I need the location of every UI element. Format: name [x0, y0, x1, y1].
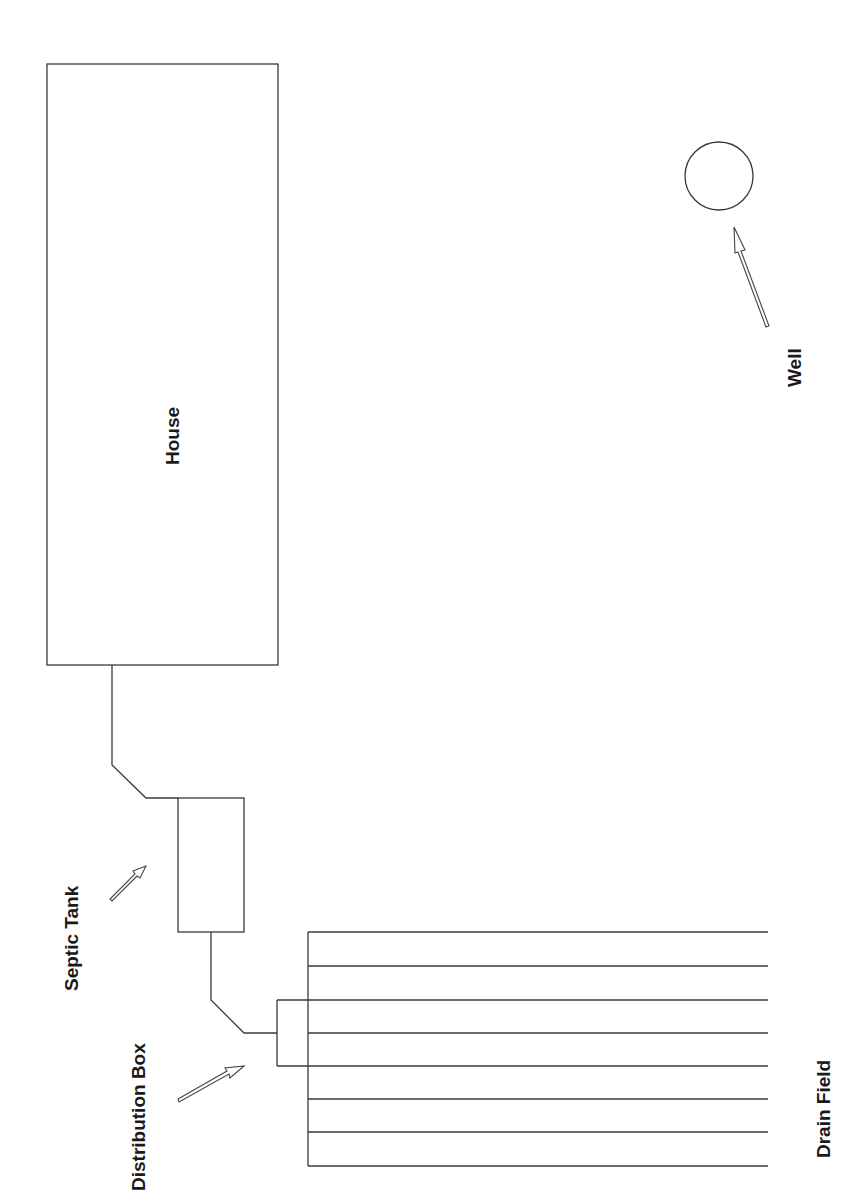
arrow-icon-distribution-box	[178, 1066, 244, 1102]
arrow-icon-well	[734, 227, 769, 327]
well-circle	[685, 142, 753, 210]
septic-tank-label: Septic Tank	[62, 886, 81, 991]
septic-tank-rect	[178, 798, 244, 932]
septic-diagram-canvas	[0, 0, 852, 1197]
arrow-icon-septic-tank	[110, 866, 146, 901]
distribution-box-label: Distribution Box	[129, 1043, 148, 1191]
pipe-tank-to-dbox	[211, 932, 277, 1033]
house-label: House	[163, 407, 182, 465]
house-rect	[47, 64, 278, 665]
pipe-house-to-tank	[112, 665, 178, 798]
drain-field-label: Drain Field	[814, 1060, 833, 1158]
well-label: Well	[785, 348, 804, 387]
drain-field	[277, 932, 768, 1166]
